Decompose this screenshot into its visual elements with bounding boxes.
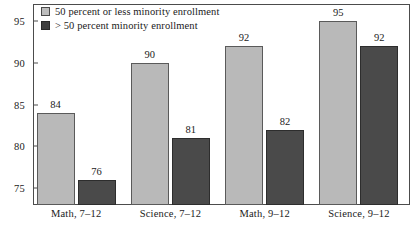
bar — [78, 180, 116, 205]
bar — [172, 138, 210, 205]
bar-value-label: 90 — [144, 49, 155, 60]
bar — [266, 130, 304, 205]
legend: 50 percent or less minority enrollment >… — [41, 5, 219, 33]
x-tick-label: Math, 9–12 — [239, 208, 289, 219]
y-tick-label: 80 — [14, 141, 25, 152]
legend-swatch-dark-icon — [41, 21, 50, 30]
legend-swatch-light-icon — [41, 7, 50, 16]
y-axis: 75 80 85 90 95 — [0, 0, 33, 238]
bars-layer: 8476908192829592 — [33, 4, 410, 205]
legend-item-label: 50 percent or less minority enrollment — [55, 6, 219, 17]
bar-value-label: 84 — [50, 99, 61, 110]
x-tick-label: Science, 9–12 — [328, 208, 390, 219]
bar-chart: 75 80 85 90 95 8476908192829592 Math, 7–… — [0, 0, 417, 238]
x-tick-label: Math, 7–12 — [51, 208, 101, 219]
bar — [360, 46, 398, 205]
bar — [225, 46, 263, 205]
x-axis: Math, 7–12Science, 7–12Math, 9–12Science… — [33, 208, 410, 228]
bar — [131, 63, 169, 205]
x-tick-label: Science, 7–12 — [140, 208, 202, 219]
bar — [319, 21, 357, 205]
y-tick-label: 75 — [14, 183, 25, 194]
bar-value-label: 81 — [185, 124, 196, 135]
bar — [37, 113, 75, 205]
bar-value-label: 92 — [239, 32, 250, 43]
bar-value-label: 76 — [91, 166, 102, 177]
legend-item-label: > 50 percent minority enrollment — [55, 20, 198, 31]
y-tick-label: 85 — [14, 99, 25, 110]
y-tick-label: 90 — [14, 57, 25, 68]
bar-value-label: 82 — [280, 116, 291, 127]
bar-value-label: 95 — [333, 7, 344, 18]
legend-item: 50 percent or less minority enrollment — [41, 5, 219, 17]
y-tick-label: 95 — [14, 15, 25, 26]
legend-item: > 50 percent minority enrollment — [41, 19, 219, 31]
bar-value-label: 92 — [374, 32, 385, 43]
